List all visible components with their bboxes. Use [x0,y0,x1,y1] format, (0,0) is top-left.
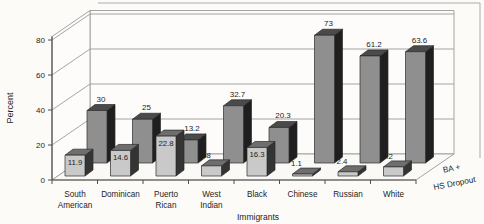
value-label-front: 2.4 [337,157,349,166]
value-label-back: 30 [97,95,106,104]
ytick-label: 40 [36,106,45,115]
value-label-front: 1.1 [291,159,302,168]
category-label: Dominican [101,190,140,199]
chart-figure: 020406080302513.232.720.37361.263.611.91… [0,0,484,224]
bar-back-3-face [224,106,244,163]
category-label: Indian [200,201,223,210]
bar-back-5-side [335,29,343,163]
series-depth-label-front: HS Dropout [433,175,477,192]
category-label: Rican [156,201,177,210]
category-label: Black [247,190,268,199]
bar-back-7-side [426,46,434,163]
value-label-front: 22.8 [158,139,173,148]
ytick-label: 60 [36,71,45,80]
bar-back-6-face [360,56,380,163]
value-label-front: 16.3 [249,150,264,159]
ytick-label: 20 [36,141,45,150]
value-label-back: 63.6 [412,36,428,45]
bar-front-5-face [293,174,313,176]
bar-chart-3d: 020406080302513.232.720.37361.263.611.91… [0,0,484,224]
bar-front-3-face [202,166,222,176]
value-label-back: 32.7 [230,90,246,99]
category-label: Chinese [287,190,317,199]
bar-back-4-side [289,121,297,163]
ytick-label: 80 [36,36,45,45]
category-label: West [202,190,221,199]
value-label-back: 73 [324,19,333,28]
value-label-front: 5.2 [382,152,393,161]
value-label-back: 13.2 [184,124,200,133]
value-label-front: 14.6 [113,153,128,162]
series-depth-label-back: BA + [442,162,461,174]
x-axis-title: Immigrants [237,212,279,222]
bar-front-2-side [176,130,184,176]
category-label: American [58,201,93,210]
bar-front-6-face [338,172,358,176]
bar-back-6-side [380,50,388,163]
category-label: Puerto [154,190,179,199]
value-label-front: 5.8 [200,151,211,160]
value-label-front: 11.9 [68,158,83,167]
category-label: White [383,190,404,199]
value-label-back: 20.3 [275,111,291,120]
category-label: South [64,190,86,199]
bar-back-5-face [315,35,335,163]
value-label-back: 25 [142,103,151,112]
y-axis-title: Percent [5,92,15,124]
category-label: Russian [333,190,363,199]
value-label-back: 61.2 [366,40,382,49]
bar-front-7-face [384,167,404,176]
ytick-label: 0 [41,176,46,185]
bar-back-7-face [406,52,426,163]
